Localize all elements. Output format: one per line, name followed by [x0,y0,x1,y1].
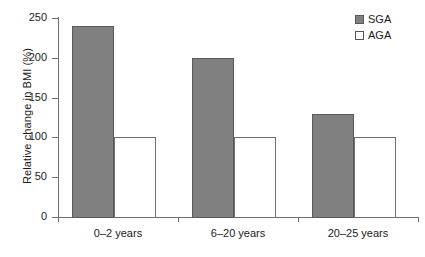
x-tick-mark [418,217,419,222]
y-tick-mark [52,177,58,178]
y-tick-label: 150 [1,92,47,103]
bar-sga-group-2 [192,58,234,218]
chart-legend: SGA AGA [355,12,391,44]
y-tick-label: 100 [1,131,47,142]
x-group-label: 20–25 years [298,227,418,240]
legend-swatch-sga-icon [355,15,364,24]
y-tick-mark [52,58,58,59]
y-axis-title: Relative change in BMI (%) [21,16,33,216]
x-tick-mark [178,217,179,222]
legend-item-sga[interactable]: SGA [355,12,391,27]
x-group-label: 6–20 years [178,227,298,240]
y-tick-label: 250 [1,12,47,23]
y-tick-mark [52,18,58,19]
x-group-label: 0–2 years [58,227,178,240]
y-tick-label: 50 [1,171,47,182]
x-tick-mark [298,217,299,222]
x-tick-mark [58,217,59,222]
y-tick-mark [52,98,58,99]
y-tick-mark [52,137,58,138]
legend-item-aga[interactable]: AGA [355,28,391,43]
y-axis-line [58,17,59,218]
legend-label-aga: AGA [368,30,391,41]
y-tick-label: 0 [1,211,47,222]
bar-sga-group-1 [72,26,114,218]
y-tick-label: 200 [1,52,47,63]
legend-label-sga: SGA [368,14,391,25]
legend-swatch-aga-icon [355,31,364,40]
bar-aga-group-1 [114,137,156,218]
bar-aga-group-3 [354,137,396,218]
bar-chart: Relative change in BMI (%) 2502001501005… [0,0,425,257]
bar-sga-group-3 [312,114,354,218]
bar-aga-group-2 [234,137,276,218]
